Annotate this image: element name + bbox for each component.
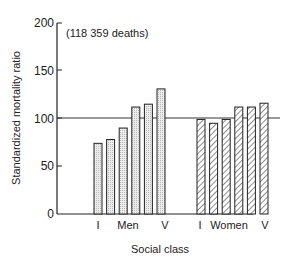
- bar-women-iv: [247, 107, 255, 214]
- bar-women-iiin: [222, 119, 230, 214]
- women-bars: [197, 103, 268, 214]
- bar-men-ii: [107, 140, 115, 214]
- bar-men-iiim: [132, 107, 140, 214]
- svg-text:100: 100: [34, 112, 54, 126]
- y-ticks: [57, 23, 62, 166]
- svg-text:50: 50: [41, 159, 55, 173]
- x-axis-label: Social class: [131, 243, 190, 255]
- chart: 200 150 100 50 0 (118 359 deaths) Standa…: [0, 0, 295, 265]
- y-tick-labels: 200 150 100 50 0: [34, 16, 54, 221]
- svg-text:I: I: [198, 219, 201, 231]
- y-axis-label: Standardized mortality ratio: [10, 51, 22, 185]
- bar-women-i: [197, 119, 205, 214]
- svg-text:200: 200: [34, 16, 54, 30]
- men-bars: [94, 89, 165, 214]
- svg-text:150: 150: [34, 64, 54, 78]
- deaths-annotation: (118 359 deaths): [66, 27, 148, 39]
- bar-men-iiin: [119, 128, 127, 214]
- svg-text:V: V: [261, 219, 269, 231]
- bar-women-v: [260, 103, 268, 214]
- bar-men-iv: [144, 104, 152, 214]
- svg-text:I: I: [96, 219, 99, 231]
- svg-text:V: V: [161, 219, 169, 231]
- bar-men-v: [157, 89, 165, 214]
- svg-text:Women: Women: [210, 219, 248, 231]
- bar-women-iiim: [235, 107, 243, 214]
- svg-text:0: 0: [47, 207, 54, 221]
- bar-men-i: [94, 143, 102, 214]
- bar-women-ii: [210, 123, 218, 214]
- x-tick-labels: I Men V I Women V: [96, 219, 269, 231]
- svg-text:Men: Men: [117, 219, 138, 231]
